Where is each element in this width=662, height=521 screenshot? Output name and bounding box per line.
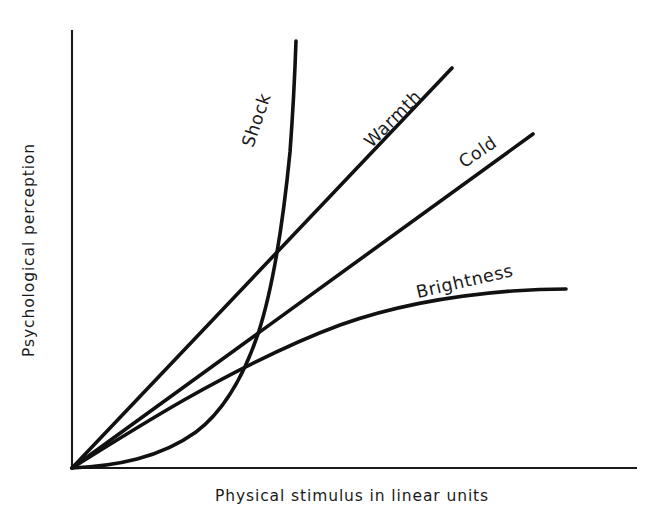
y-axis-title: Psychological perception	[20, 143, 38, 357]
x-axis-title: Physical stimulus in linear units	[215, 487, 489, 505]
figure-root: Shock Warmth Cold Brightness Physical st…	[0, 0, 662, 521]
psychophysics-chart: Shock Warmth Cold Brightness Physical st…	[0, 0, 662, 521]
chart-background	[0, 0, 662, 521]
